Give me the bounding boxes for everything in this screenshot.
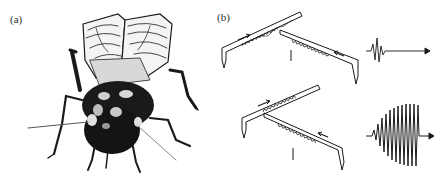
waveform-tonal-burst	[366, 104, 434, 166]
file-scraper-bottom	[242, 85, 344, 170]
stridulation-diagram	[222, 12, 434, 170]
cricket-eye	[87, 114, 97, 126]
file-scraper-top	[222, 12, 358, 84]
arrow-right-icon	[425, 48, 430, 54]
arrow-right-icon	[429, 133, 434, 139]
cricket-illustration	[28, 14, 198, 172]
cricket-wings	[83, 14, 172, 86]
waveform-short-pulse	[366, 38, 430, 62]
